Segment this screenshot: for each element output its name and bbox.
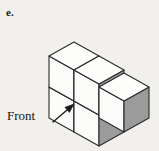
part-label-e: e. [6, 6, 14, 18]
front-label: Front [7, 108, 35, 123]
cube-figure-container: e. Front [0, 0, 159, 151]
isometric-cube-stack-drawing [0, 0, 159, 151]
cubes-group [49, 42, 149, 146]
